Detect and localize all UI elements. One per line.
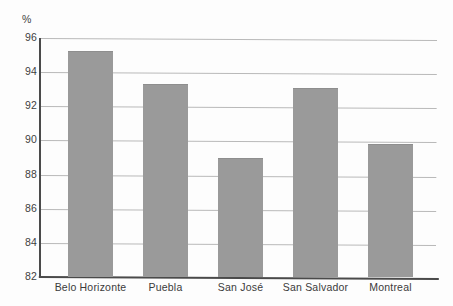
y-tick-label: 92 — [3, 99, 37, 111]
y-axis-tick-labels: 8284868890929496 — [0, 0, 37, 306]
y-tick-label: 90 — [3, 133, 37, 145]
y-tick-label: 94 — [3, 65, 37, 77]
bar — [218, 158, 263, 277]
y-tick-label: 82 — [3, 270, 37, 282]
y-tick-label: 96 — [3, 31, 37, 43]
bar — [293, 88, 338, 277]
bars-group — [40, 38, 437, 277]
x-tick-label: Montreal — [343, 281, 438, 293]
bar — [368, 144, 413, 277]
y-tick-label: 88 — [3, 168, 37, 180]
x-axis-category-labels: Belo HorizontePueblaSan JoséSan Salvador… — [40, 281, 440, 303]
bar — [143, 84, 188, 277]
y-tick-label: 84 — [3, 236, 37, 248]
bar — [68, 51, 113, 277]
bar-chart: % 8284868890929496 Belo HorizontePueblaS… — [0, 0, 453, 306]
y-tick-label: 86 — [3, 202, 37, 214]
